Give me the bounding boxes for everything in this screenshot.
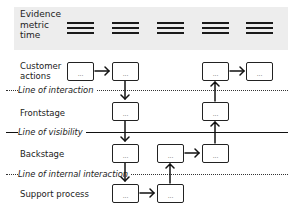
frontstage-box-2[interactable]: ... bbox=[112, 102, 139, 121]
customer-action-box-5[interactable]: ... bbox=[246, 62, 273, 81]
customer-action-box-2[interactable]: ... bbox=[112, 62, 139, 81]
frontstage-box-4[interactable]: ... bbox=[202, 102, 229, 121]
customer-action-box-4[interactable]: ... bbox=[202, 62, 229, 81]
support-process-box-3[interactable]: ... bbox=[157, 184, 184, 203]
support-process-box-2[interactable]: ... bbox=[112, 184, 139, 203]
backstage-box-3[interactable]: ... bbox=[157, 144, 184, 163]
flow-arrows bbox=[0, 0, 302, 217]
backstage-box-2[interactable]: ... bbox=[112, 144, 139, 163]
backstage-box-4[interactable]: ... bbox=[202, 144, 229, 163]
customer-action-box-1[interactable]: ... bbox=[67, 62, 94, 81]
